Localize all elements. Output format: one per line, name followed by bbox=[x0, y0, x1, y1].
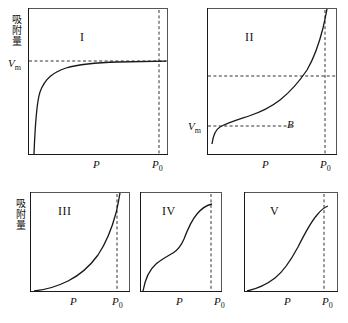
panel-1-vm-subscript: m bbox=[15, 63, 21, 72]
panel-4-p0-symbol: P bbox=[214, 295, 221, 307]
panel-1-p0-subscript: 0 bbox=[159, 164, 163, 173]
panel-4-x-label: P bbox=[176, 295, 183, 307]
panel-3-plot bbox=[30, 192, 130, 292]
panel-2-vm-label: Vm bbox=[188, 120, 201, 135]
panel-5-x-label-max: P0 bbox=[322, 295, 333, 310]
panel-3-x-label-max: P0 bbox=[112, 295, 123, 310]
panel-2-x-label: P bbox=[262, 158, 269, 170]
panel-1-plot bbox=[28, 8, 168, 155]
panel-3-y-axis-label: 吸附量 bbox=[12, 198, 27, 231]
panel-5-p0-symbol: P bbox=[322, 295, 329, 307]
panel-4-p0-subscript: 0 bbox=[221, 301, 225, 310]
panel-3-p0-subscript: 0 bbox=[119, 301, 123, 310]
panel-2-p0-subscript: 0 bbox=[327, 164, 331, 173]
panel-1-x-label: P bbox=[93, 158, 100, 170]
panel-5-curve bbox=[247, 206, 328, 291]
panel-1-y-axis-label: 吸附量 bbox=[8, 14, 23, 47]
panel-3-x-label: P bbox=[70, 295, 77, 307]
panel-4-plot bbox=[140, 192, 222, 292]
panel-4-curve bbox=[143, 204, 212, 291]
panel-4-x-label-max: P0 bbox=[214, 295, 225, 310]
panel-type-2: II B bbox=[207, 8, 337, 155]
panel-3-curve bbox=[34, 193, 120, 291]
panel-1-curve bbox=[34, 61, 166, 154]
panel-5-p0-subscript: 0 bbox=[329, 301, 333, 310]
panel-2-x-label-max: P0 bbox=[320, 158, 331, 173]
panel-4-roman-label: IV bbox=[162, 204, 176, 219]
panel-type-3: III bbox=[30, 192, 130, 292]
panel-2-p0-symbol: P bbox=[320, 158, 327, 170]
panel-1-p0-symbol: P bbox=[152, 158, 159, 170]
panel-5-x-label: P bbox=[284, 295, 291, 307]
panel-type-5: V bbox=[244, 192, 338, 292]
panel-1-x-label-max: P0 bbox=[152, 158, 163, 173]
panel-1-roman-label: I bbox=[80, 30, 85, 45]
panel-3-roman-label: III bbox=[58, 204, 72, 219]
panel-3-p0-symbol: P bbox=[112, 295, 119, 307]
panel-5-plot bbox=[244, 192, 338, 292]
panel-2-roman-label: II bbox=[245, 30, 254, 45]
panel-type-4: IV bbox=[140, 192, 222, 292]
panel-2-plot bbox=[207, 8, 337, 155]
panel-type-1: I bbox=[28, 8, 168, 155]
panel-2-vm-subscript: m bbox=[195, 126, 201, 135]
panel-1-vm-label: Vm bbox=[8, 57, 21, 72]
panel-2-vm-symbol: V bbox=[188, 120, 195, 132]
panel-5-roman-label: V bbox=[270, 204, 279, 219]
panel-1-vm-symbol: V bbox=[8, 57, 15, 69]
panel-2-point-b-label: B bbox=[287, 118, 294, 130]
